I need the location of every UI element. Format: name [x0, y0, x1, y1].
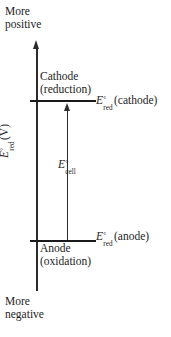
potential-axis-line [36, 48, 38, 291]
cell-potential-symbol: E°cell [58, 158, 65, 170]
cell-potential-subscript: cell [65, 166, 75, 178]
axis-title-unit: (V) [0, 124, 10, 140]
cathode-potential-symbol: E°red(cathode) [96, 94, 157, 106]
axis-top-label-line2: positive [5, 18, 41, 31]
axis-top-label: More positive [5, 5, 41, 30]
axis-bottom-label-line2: negative [5, 308, 44, 321]
axis-bottom-label-line1: More [5, 295, 44, 308]
axis-title-subscript: red [6, 141, 18, 150]
anode-potential-symbol: E°red(anode) [96, 230, 149, 242]
cathode-potential-subscript: red [103, 102, 112, 114]
axis-title-symbol: E [0, 151, 10, 158]
anode-potential-argument: (anode) [114, 230, 149, 242]
cathode-label-line2: (reduction) [40, 83, 91, 96]
cathode-label-line1: Cathode [40, 70, 91, 83]
anode-potential-subscript: red [103, 238, 112, 250]
cathode-label: Cathode (reduction) [40, 70, 91, 95]
anode-label-line1: Anode [40, 242, 91, 255]
axis-title: E°red(V) [0, 124, 10, 158]
cell-potential-diagram: More positive More negative E°red(V) Cat… [0, 0, 171, 337]
axis-top-label-line1: More [5, 5, 41, 18]
cathode-level-line [30, 100, 96, 102]
anode-label-line2: (oxidation) [40, 255, 91, 268]
anode-potential-symbol-E: E [96, 230, 103, 242]
cathode-potential-symbol-E: E [96, 94, 103, 106]
cell-potential-symbol-E: E [58, 158, 65, 170]
anode-label: Anode (oxidation) [40, 242, 91, 267]
axis-bottom-label: More negative [5, 295, 44, 320]
cathode-potential-argument: (cathode) [114, 94, 157, 106]
